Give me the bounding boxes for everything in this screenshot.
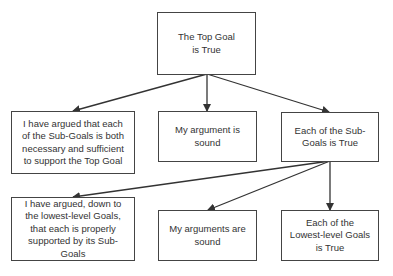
node-line: Each of the Sub- <box>295 125 366 138</box>
node-line: Goals <box>25 248 122 261</box>
node-line: Each of the <box>290 217 370 230</box>
node-line: The Top Goal <box>178 31 235 44</box>
node-line: is True <box>178 44 235 57</box>
node-line: I have argued that each <box>22 118 124 131</box>
node-argument-sound: My argument is sound <box>158 111 257 162</box>
node-top-goal: The Top Goal is True <box>157 12 256 75</box>
node-argued-lowest: I have argued, down to the lowest-level … <box>11 197 135 261</box>
node-line: necessary and sufficient <box>22 143 124 156</box>
node-line: sound <box>175 137 240 150</box>
node-line: that each is properly <box>25 223 122 236</box>
node-line: to support the Top Goal <box>22 155 124 168</box>
node-line: the lowest-level Goals, <box>25 210 122 223</box>
node-lowest-goals-true: Each of the Lowest-level Goals is True <box>281 210 379 261</box>
node-line: of the Sub-Goals is both <box>22 130 124 143</box>
node-line: Lowest-level Goals <box>290 229 370 242</box>
edge-top-to-argued-sub <box>73 74 207 111</box>
node-line: is True <box>290 242 370 255</box>
node-argued-subgoals: I have argued that each of the Sub-Goals… <box>11 111 135 174</box>
node-line: My argument is <box>175 124 240 137</box>
node-line: My arguments are <box>169 223 246 236</box>
node-line: supported by its Sub- <box>25 235 122 248</box>
node-line: Goals is True <box>295 137 366 150</box>
edge-top-to-subgoals-true <box>207 74 329 112</box>
node-arguments-sound: My arguments are sound <box>158 210 257 261</box>
node-line: sound <box>169 236 246 249</box>
node-line: I have argued, down to <box>25 198 122 211</box>
node-subgoals-true: Each of the Sub- Goals is True <box>281 112 379 162</box>
edge-subgoals-to-arguments-sound <box>208 161 330 210</box>
